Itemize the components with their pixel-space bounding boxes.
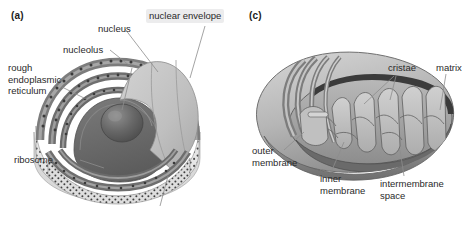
- figure-root: (a) nucleus nuclear envelope nucleolus r…: [0, 0, 465, 226]
- panel-c-tag: (c): [249, 10, 262, 21]
- panel-nucleus: (a) nucleus nuclear envelope nucleolus r…: [0, 0, 240, 226]
- label-rough-er: rough endoplasmic reticulum: [8, 62, 61, 97]
- label-nucleolus: nucleolus: [63, 44, 103, 56]
- label-cristae: cristae: [388, 62, 416, 74]
- panel-mitochondrion: (c) cristae matrix outer membrane inner …: [240, 0, 465, 226]
- label-outer-membrane: outer membrane: [252, 145, 297, 168]
- leader-nuclear-envelope: [190, 26, 205, 78]
- label-nucleus: nucleus: [98, 23, 131, 35]
- panel-a-tag: (a): [11, 10, 24, 21]
- label-matrix: matrix: [436, 62, 462, 74]
- label-intermembrane-space: intermembrane space: [380, 178, 444, 201]
- label-inner-membrane: inner membrane: [320, 173, 365, 196]
- label-ribosome: ribosome: [14, 154, 53, 166]
- label-nuclear-envelope: nuclear envelope: [146, 9, 224, 23]
